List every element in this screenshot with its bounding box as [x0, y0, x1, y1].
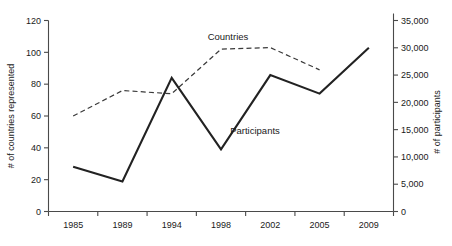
countries-label: Countries — [208, 31, 249, 42]
right-tick-label: 25,000 — [401, 70, 429, 80]
x-tick-label: 2005 — [310, 220, 330, 230]
x-axis: 1985198919941998200220052009 — [49, 212, 394, 230]
chart-container: 020406080100120# of countries represente… — [0, 0, 452, 246]
dual-axis-line-chart: 020406080100120# of countries represente… — [0, 0, 452, 246]
x-tick-label: 2009 — [359, 220, 379, 230]
right-axis-title: # of participants — [432, 90, 442, 154]
participants-label: Participants — [230, 125, 280, 136]
series-line-participants — [73, 48, 369, 182]
right-axis: 05,00010,00015,00020,00025,00030,00035,0… — [394, 14, 443, 217]
series-annotations: CountriesParticipants — [208, 31, 280, 136]
right-tick-label: 20,000 — [401, 98, 429, 108]
series-line-countries — [73, 48, 319, 116]
left-axis-title: # of countries represented — [6, 64, 16, 169]
left-tick-label: 80 — [31, 79, 41, 89]
right-tick-label: 0 — [401, 207, 406, 217]
right-tick-label: 15,000 — [401, 125, 429, 135]
x-tick-label: 2002 — [260, 220, 280, 230]
right-tick-label: 35,000 — [401, 16, 429, 26]
left-tick-label: 40 — [31, 143, 41, 153]
right-tick-label: 30,000 — [401, 43, 429, 53]
left-axis: 020406080100120# of countries represente… — [6, 16, 49, 217]
left-tick-label: 120 — [26, 16, 41, 26]
series-lines — [73, 48, 369, 182]
x-tick-label: 1989 — [112, 220, 132, 230]
right-tick-label: 5,000 — [401, 179, 424, 189]
left-tick-label: 20 — [31, 175, 41, 185]
x-tick-label: 1985 — [63, 220, 83, 230]
x-tick-label: 1998 — [211, 220, 231, 230]
left-tick-label: 60 — [31, 111, 41, 121]
right-tick-label: 10,000 — [401, 152, 429, 162]
x-tick-label: 1994 — [162, 220, 182, 230]
left-tick-label: 0 — [36, 207, 41, 217]
left-tick-label: 100 — [26, 48, 41, 58]
